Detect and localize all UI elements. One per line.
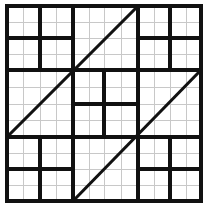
figure-canvas <box>0 0 208 213</box>
grid-figure-svg <box>0 0 208 213</box>
